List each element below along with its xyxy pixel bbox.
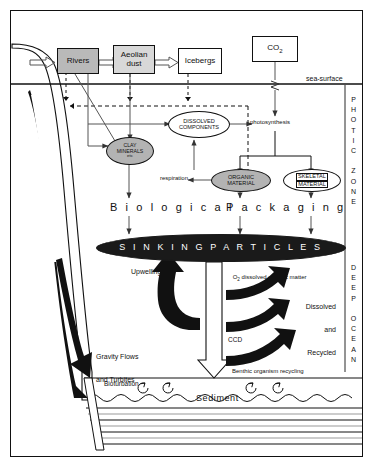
source-box-icebergs[interactable]: Icebergs: [178, 48, 222, 74]
bioturbation-swirl-icons: [138, 383, 283, 393]
dissolved-and-recycled-label: Dissolved and Recycled: [274, 288, 336, 371]
sinking-particles-ellipse[interactable]: S I N K I N G P A R T I C L E S: [96, 234, 346, 262]
sediment-label: Sediment: [196, 394, 239, 403]
upwelling-label: Upwelling: [131, 268, 161, 275]
bioturbation-label: Bioturbation: [104, 381, 139, 388]
co2-label: CO2: [267, 44, 282, 54]
pool-dissolved-components[interactable]: DISSOLVED COMPONENTS: [168, 111, 230, 138]
benthic-recycling-label: Benthic organism recycling: [232, 368, 304, 374]
deep-ocean-label: DEEP OCEAN: [350, 264, 357, 366]
organic-label-line2: MATERIAL: [227, 181, 255, 187]
pool-clay-minerals[interactable]: CLAY MINERALS etc: [106, 137, 154, 165]
photic-zone-label: PHOTIC ZONE: [350, 96, 357, 208]
dashed-recycle-arrowheads: [63, 97, 251, 176]
dissolved-recycled-line2: and: [274, 326, 336, 333]
respiration-label: respiration: [160, 175, 188, 181]
pool-organic-material[interactable]: ORGANIC MATERIAL: [211, 169, 271, 192]
diagram-canvas: Rivers Aeolian dust Icebergs CO2 sea-sur…: [0, 0, 375, 469]
source-box-aeolian-dust[interactable]: Aeolian dust: [113, 45, 155, 74]
ccd-label: CCD: [228, 337, 242, 344]
dissolved-recycled-line1: Dissolved: [274, 303, 336, 310]
gravity-line1: Gravity Flows: [96, 353, 138, 360]
pool-skeletal-material[interactable]: SKELETAL MATERIAL: [283, 169, 341, 192]
gravity-flows-label: Gravity Flows and Turbites: [96, 338, 138, 398]
skeletal-label-line1: SKELETAL: [296, 173, 328, 181]
clay-label-line3: etc: [127, 154, 133, 158]
sea-surface-label: sea-surface: [306, 75, 343, 82]
photosynthesis-label: photosynthesis: [250, 119, 290, 125]
skeletal-label-line2: MATERIAL: [296, 181, 328, 189]
terrestrial-input-lines: [75, 74, 170, 146]
o2-dissolved-organic-matter-label: O2 dissolved organic matter: [226, 268, 307, 290]
upwelling-arrow: [152, 252, 200, 330]
packaging-label: P a c k a g i n g: [226, 202, 346, 214]
dissolved-label-line2: COMPONENTS: [179, 125, 219, 131]
sinking-particles-label: S I N K I N G P A R T I C L E S: [119, 243, 322, 252]
source-box-rivers[interactable]: Rivers: [57, 48, 99, 74]
biological-label: B i o l o g i c a l: [110, 202, 234, 214]
photosynthesis-branch: [240, 131, 311, 174]
co2-flux-lines: [271, 62, 279, 116]
aeolian-dust-label-line2: dust: [126, 60, 141, 68]
rivers-label: Rivers: [67, 57, 90, 65]
icebergs-label: Icebergs: [185, 57, 216, 65]
dissolved-recycled-line3: Recycled: [274, 349, 336, 356]
source-box-co2[interactable]: CO2: [252, 36, 298, 62]
